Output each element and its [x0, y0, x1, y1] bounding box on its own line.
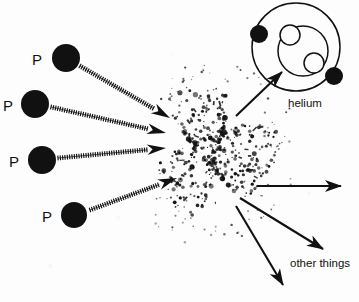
- burst-dot: [198, 114, 200, 116]
- burst-dot: [202, 198, 203, 199]
- burst-speck: [258, 77, 259, 78]
- burst-dot: [207, 90, 209, 92]
- burst-speck: [177, 91, 178, 92]
- burst-dot: [252, 169, 256, 173]
- burst-dot: [183, 163, 185, 165]
- burst-dot: [232, 157, 233, 158]
- burst-dot: [243, 181, 245, 183]
- burst-dot: [207, 147, 208, 148]
- burst-streak: [215, 202, 216, 204]
- burst-speck: [264, 111, 266, 113]
- proton-label-4: P: [42, 209, 52, 224]
- burst-speck: [260, 83, 262, 85]
- burst-dot: [235, 133, 239, 137]
- burst-dot: [265, 170, 269, 174]
- burst-streak: [194, 135, 199, 138]
- burst-speck: [236, 66, 238, 68]
- arrow-shaft: [80, 66, 154, 109]
- burst-dot: [225, 120, 227, 122]
- burst-speck: [278, 148, 280, 150]
- burst-dot: [234, 180, 236, 182]
- proton-label-1: P: [32, 52, 42, 67]
- burst-dot: [230, 176, 233, 179]
- burst-speck: [171, 95, 173, 97]
- burst-speck: [267, 97, 270, 100]
- burst-dot: [241, 169, 244, 172]
- burst-dot: [180, 178, 182, 180]
- burst-dot: [176, 157, 179, 160]
- burst-dot: [210, 172, 211, 173]
- burst-dot: [271, 146, 272, 147]
- burst-speck: [154, 222, 156, 224]
- burst-streak: [238, 156, 242, 159]
- burst-speck: [260, 195, 262, 197]
- burst-speck: [273, 204, 275, 206]
- burst-dot: [189, 135, 191, 137]
- burst-speck: [253, 72, 255, 74]
- burst-dot: [188, 161, 190, 163]
- burst-dot: [185, 99, 188, 102]
- burst-dot: [265, 164, 268, 167]
- burst-speck: [273, 162, 274, 163]
- incoming-arrow-4: [89, 178, 177, 212]
- burst-dot: [261, 167, 262, 168]
- burst-dot: [242, 173, 245, 176]
- burst-dot: [209, 144, 212, 147]
- burst-dot: [203, 138, 206, 141]
- nucleon-2: [304, 53, 324, 73]
- burst-dot: [211, 155, 213, 157]
- arrow-other-things: [240, 198, 323, 249]
- burst-dot: [238, 152, 240, 154]
- burst-dot: [225, 154, 226, 155]
- burst-dot: [255, 145, 257, 147]
- burst-dot: [196, 161, 198, 163]
- burst-dot: [193, 92, 198, 97]
- burst-dot: [173, 200, 177, 204]
- burst-dot: [170, 161, 172, 163]
- burst-dot: [170, 100, 171, 101]
- burst-dot: [190, 118, 192, 120]
- burst-dot: [249, 125, 251, 127]
- burst-dot: [188, 133, 190, 135]
- burst-speck: [203, 228, 205, 230]
- burst-dot: [267, 127, 268, 128]
- burst-speck: [263, 216, 264, 217]
- burst-dot: [251, 183, 254, 186]
- burst-dot: [176, 186, 177, 187]
- burst-dot: [250, 135, 254, 139]
- burst-dot: [212, 147, 214, 149]
- burst-dot: [178, 111, 180, 113]
- burst-dot: [197, 196, 200, 199]
- helium-label: helium: [288, 98, 322, 110]
- incoming-arrow-3: [58, 144, 166, 160]
- burst-dot: [235, 186, 238, 189]
- burst-speck: [279, 143, 281, 145]
- burst-speck: [155, 214, 157, 216]
- burst-dot: [263, 130, 266, 133]
- burst-speck: [288, 140, 290, 142]
- burst-speck: [171, 226, 173, 228]
- burst-dot: [172, 115, 174, 117]
- burst-dot: [253, 187, 256, 190]
- burst-speck: [171, 88, 172, 89]
- burst-dot: [180, 122, 184, 126]
- burst-dot: [256, 186, 257, 187]
- burst-dot: [234, 154, 237, 157]
- burst-dot: [206, 181, 208, 183]
- burst-dot: [209, 130, 211, 132]
- burst-dot: [195, 147, 197, 149]
- burst-speck: [284, 136, 285, 137]
- burst-dot: [219, 167, 221, 169]
- burst-dot: [192, 151, 194, 153]
- burst-dot: [190, 185, 193, 188]
- burst-dot: [218, 154, 221, 157]
- burst-dot: [199, 95, 201, 97]
- burst-speck: [202, 68, 203, 69]
- burst-dot: [204, 158, 208, 162]
- proton-label-2: P: [3, 98, 13, 113]
- burst-dot: [177, 90, 182, 95]
- burst-dot: [178, 123, 179, 124]
- arrow-head: [151, 104, 170, 118]
- burst-dot: [172, 166, 175, 169]
- burst-speck: [166, 198, 167, 199]
